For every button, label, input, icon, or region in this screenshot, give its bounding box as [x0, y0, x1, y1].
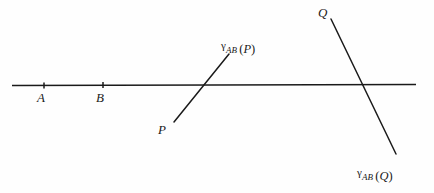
paren-close-q: ) [388, 169, 392, 183]
line-through-q [331, 19, 396, 154]
geometry-figure: A B P Q γAB(P) γAB(Q) [0, 0, 434, 193]
gamma-argument-p: (P) [239, 42, 255, 56]
arg-letter-p: P [243, 42, 251, 56]
label-point-p: P [158, 123, 166, 136]
gamma-subscript-q: AB [362, 172, 373, 182]
paren-close-p: ) [251, 42, 255, 56]
gamma-symbol-p: γ [221, 39, 226, 51]
label-point-a: A [37, 91, 45, 104]
axis-line [12, 85, 416, 86]
figure-canvas [0, 0, 434, 193]
label-point-q: Q [318, 6, 327, 19]
gamma-argument-q: (Q) [375, 169, 392, 183]
label-gamma-ab-of-q: γAB(Q) [357, 170, 393, 183]
gamma-symbol-q: γ [357, 166, 362, 178]
label-gamma-ab-of-p: γAB(P) [221, 43, 255, 56]
label-point-b: B [96, 91, 104, 104]
line-through-p [174, 54, 229, 122]
gamma-subscript-p: AB [226, 45, 237, 55]
